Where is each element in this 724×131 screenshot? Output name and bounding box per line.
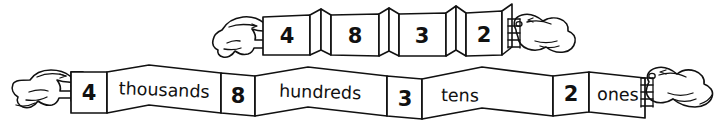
unfolded-cell-digit-3: 3 — [387, 76, 422, 119]
accordion-fold-3 — [446, 6, 466, 56]
unfolded-strip: 4 thousands 8 hundreds 3 — [12, 65, 712, 119]
folded-digit-value: 3 — [415, 24, 430, 48]
right-hand-pinch — [508, 14, 575, 52]
place-value-strip-figure: 4 8 3 — [0, 0, 724, 131]
unfolded-cell-word-hundreds: hundreds — [255, 67, 387, 116]
right-hand-grip — [641, 67, 713, 107]
unfolded-digit-value: 4 — [82, 81, 97, 105]
figure-canvas: 4 8 3 — [0, 0, 724, 131]
unfolded-cell-digit-4: 4 — [71, 72, 107, 113]
unfolded-word-value: ones — [597, 84, 639, 105]
unfolded-cell-digit-8: 8 — [221, 73, 255, 116]
folded-cell-digit-4: 4 — [263, 15, 310, 55]
folded-cell-digit-8: 8 — [331, 14, 379, 56]
unfolded-cell-digit-2: 2 — [553, 72, 589, 116]
unfolded-digit-value: 3 — [398, 87, 413, 111]
unfolded-word-value: hundreds — [279, 81, 362, 103]
unfolded-digit-value: 2 — [564, 82, 579, 106]
folded-digit-value: 2 — [477, 23, 492, 47]
folded-cell-digit-2: 2 — [466, 11, 502, 56]
accordion-fold-1 — [310, 9, 331, 55]
folded-cell-digit-3: 3 — [399, 13, 446, 56]
unfolded-cell-word-ones: ones — [589, 72, 645, 118]
unfolded-word-value: tens — [441, 85, 479, 106]
folded-digit-value: 8 — [348, 24, 363, 48]
folded-digit-value: 4 — [280, 24, 295, 48]
accordion-fold-2 — [379, 8, 399, 56]
folded-strip: 4 8 3 — [213, 4, 575, 57]
unfolded-word-value: thousands — [118, 78, 210, 101]
unfolded-digit-value: 8 — [231, 84, 246, 108]
unfolded-cell-word-tens: tens — [422, 67, 553, 119]
unfolded-cell-word-thousands: thousands — [107, 65, 221, 113]
